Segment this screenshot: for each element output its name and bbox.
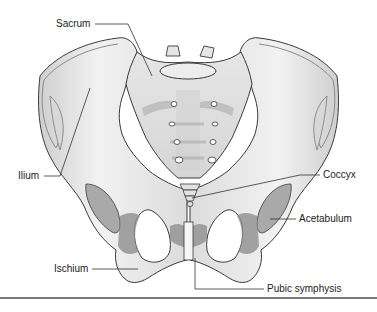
label-sacrum: Sacrum [56, 18, 90, 30]
sacrum-bone [126, 46, 252, 178]
pubic-symphysis-cartilage [184, 222, 193, 260]
pelvis-diagram: Sacrum Ilium Coccyx Acetabulum Ischium P… [0, 0, 377, 312]
label-acetabulum: Acetabulum [299, 213, 352, 225]
label-pubic-symphysis: Pubic symphysis [267, 283, 341, 295]
label-coccyx: Coccyx [323, 169, 356, 181]
bottom-divider [0, 297, 377, 299]
label-ilium: Ilium [18, 170, 39, 182]
label-ischium: Ischium [54, 263, 88, 275]
